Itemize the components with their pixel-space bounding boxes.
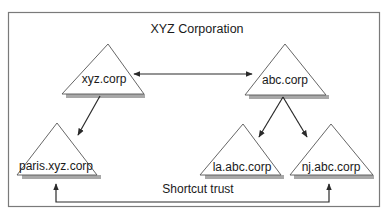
triangle-icon [62, 44, 144, 94]
domain-node-la-abc-corp: la.abc.corp [200, 124, 284, 179]
node-label: abc.corp [262, 73, 308, 87]
forest-title: XYZ Corporation [150, 22, 243, 36]
node-shadow [66, 94, 145, 98]
trust-arrow-xyz-paris [78, 96, 100, 135]
domain-node-nj-abc-corp: nj.abc.corp [290, 124, 374, 179]
domain-node-abc-corp: abc.corp [245, 44, 329, 99]
domain-node-paris-xyz-corp: paris.xyz.corp [17, 123, 101, 179]
domain-node-xyz-corp: xyz.corp [62, 44, 145, 98]
node-shadow [205, 175, 284, 179]
shortcut-trust-label: Shortcut trust [162, 182, 234, 196]
node-shadow [294, 175, 374, 179]
trust-arrow-abc-nj [283, 97, 307, 137]
triangle-icon [245, 44, 326, 95]
node-label: paris.xyz.corp [19, 159, 93, 173]
node-shadow [249, 95, 329, 99]
node-shadow [22, 175, 101, 179]
trust-arrow-abc-la [259, 97, 283, 137]
domain-trust-diagram: XYZ Corporation xyz.corp abc.corp paris.… [0, 0, 387, 222]
node-label: nj.abc.corp [302, 160, 361, 174]
node-label: xyz.corp [82, 72, 127, 86]
node-label: la.abc.corp [213, 160, 272, 174]
